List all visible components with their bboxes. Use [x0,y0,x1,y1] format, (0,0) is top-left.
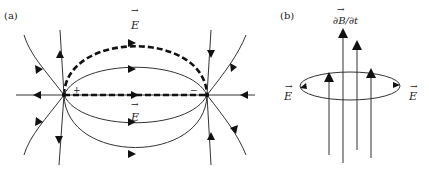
vector-arrow-flux: → [337,4,345,14]
field-line-minus-up [207,30,211,95]
field-label-axis: E [130,111,139,124]
vector-arrow-axis: → [131,99,139,109]
dashed-arc-field-line [64,46,207,95]
field-label-top: E [130,19,139,32]
field-line-plus-downleft [24,95,64,155]
panel-a: (a) + − → E → E [4,5,255,165]
positive-charge-label: + [73,85,81,95]
field-line-minus-down [207,95,211,165]
field-line-plus-down [59,95,64,165]
arrowheads-a [33,39,248,158]
field-label-left: E [283,90,292,103]
field-line-upper-inner [64,67,207,95]
field-line-plus-upleft [24,35,64,95]
field-line-plus-up [60,30,64,95]
panel-b: (b) → ∂B/∂t → E → E [280,4,418,163]
negative-charge-dot [205,93,209,97]
diagram-canvas: (a) + − → E → E (b) → ∂B/∂t → [0,0,429,173]
panel-a-label: (a) [4,10,18,21]
field-line-minus-upright [207,35,246,95]
panel-b-label: (b) [280,10,294,21]
induced-field-loop [300,72,400,100]
negative-charge-label: − [190,85,198,95]
field-line-minus-downright [207,95,246,155]
arrowheads-b [300,28,400,89]
flux-label: ∂B/∂t [333,15,359,26]
field-label-right: E [408,90,417,103]
positive-charge-dot [62,93,66,97]
vector-arrow-top: → [131,5,139,15]
